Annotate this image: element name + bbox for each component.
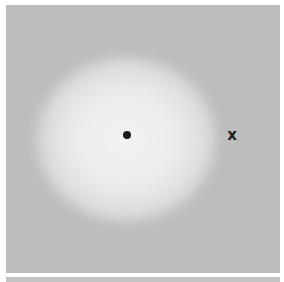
bright-glow-region [36,57,216,222]
dot-marker-icon [123,131,131,139]
cross-marker-icon: x [225,126,239,144]
next-panel-edge [6,277,280,282]
figure-panel: x [6,5,280,273]
